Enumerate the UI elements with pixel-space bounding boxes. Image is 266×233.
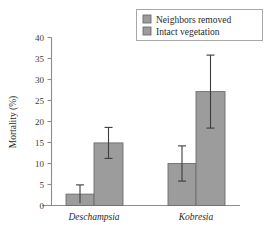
y-tick-label-40: 40 [35,33,45,43]
y-tick-label-30: 30 [35,75,45,85]
y-tick-label-10: 10 [35,159,45,169]
y-tick-label-15: 15 [35,138,45,148]
legend-label-intact-vegetation: Intact vegetation [156,27,220,37]
chart-legend: Neighbors removed Intact vegetation [137,10,263,41]
legend-swatch-intact-vegetation [143,27,151,35]
x-category-label-deschampsia: Deschampsia [67,212,119,222]
chart-figure: 0 5 10 15 20 25 30 35 40 Mortality (%) [0,0,266,233]
y-axis-title: Mortality (%) [8,96,19,149]
x-category-label-kobresia: Kobresia [178,212,214,222]
y-tick-label-0: 0 [40,201,45,211]
y-tick-label-5: 5 [40,180,45,190]
legend-label-neighbors-removed: Neighbors removed [156,15,231,25]
y-tick-label-35: 35 [35,54,45,64]
legend-swatch-neighbors-removed [143,15,151,23]
y-tick-label-25: 25 [35,96,45,106]
y-tick-label-20: 20 [35,117,45,127]
y-axis-ticks [48,38,52,206]
